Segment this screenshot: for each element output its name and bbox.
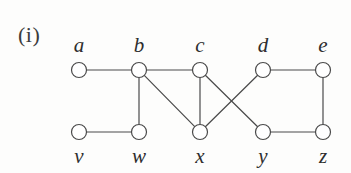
node-label-w: w [132,146,146,167]
node-layer [72,63,331,140]
graph-node-b [132,63,147,78]
node-label-e: e [318,35,327,56]
graph-node-y [256,125,271,140]
graph-node-w [132,125,147,140]
node-label-b: b [134,35,145,56]
graph-drawing [0,0,351,173]
node-label-y: y [258,146,267,167]
node-label-x: x [195,146,204,167]
graph-node-x [193,125,208,140]
graph-node-z [316,125,331,140]
graph-node-a [72,63,87,78]
node-label-v: v [74,146,83,167]
graph-node-c [193,63,208,78]
graph-node-v [72,125,87,140]
graph-edge-b-x [144,75,194,126]
graph-figure: (i) abcdevwxyz [0,0,351,173]
node-label-z: z [319,146,327,167]
graph-node-d [256,63,271,78]
node-label-c: c [195,35,204,56]
node-label-a: a [74,35,85,56]
node-label-d: d [258,35,269,56]
graph-node-e [316,63,331,78]
edge-layer [87,70,324,132]
